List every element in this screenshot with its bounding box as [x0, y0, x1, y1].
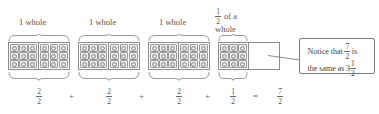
callout-suffix: is [350, 46, 358, 57]
callout-prefix: Notice that [306, 46, 344, 57]
smiley-face-icon [28, 44, 36, 51]
smiley-face-icon [150, 52, 158, 59]
partial-label-prefix: of a [224, 12, 237, 21]
smiley-face-icon [159, 60, 167, 67]
smiley-face-icon [199, 52, 208, 59]
bottom-brace-1 [8, 72, 70, 81]
smiley-face-icon [150, 60, 158, 67]
smiley-face-icon [229, 52, 237, 59]
whole-label-3: 1 whole [159, 17, 186, 27]
callout-line-1: Notice that 7 2 is [306, 43, 369, 60]
callout-fraction-one-half: 1 2 [350, 60, 356, 77]
smiley-face-icon [220, 60, 228, 67]
callout-line2-prefix: the same as [306, 63, 346, 74]
smiley-face-icon [19, 44, 27, 51]
smiley-face-icon [110, 60, 119, 67]
smiley-face-icon [168, 60, 176, 67]
smiley-face-icon [80, 60, 88, 67]
smiley-face-icon [190, 60, 199, 67]
smiley-face-icon [28, 60, 36, 67]
fraction-figure: 1 whole 1 whole 1 whole 1 2 of a whole [0, 0, 379, 114]
half-cell-filled [109, 43, 139, 69]
top-brace-1 [8, 34, 70, 41]
equation-term-2: 2 2 [102, 88, 116, 105]
partial-label-fraction: 1 2 [215, 8, 221, 25]
smiley-face-icon [10, 60, 18, 67]
smiley-face-icon [159, 44, 167, 51]
whole-label-1: 1 whole [19, 17, 46, 27]
smiley-face-icon [10, 44, 18, 51]
equation-term-partial: 1 2 [226, 88, 240, 105]
partial-label-suffix: whole [215, 25, 237, 34]
smiley-face-icon [229, 44, 237, 51]
smiley-face-icon [220, 52, 228, 59]
smiley-face-icon [150, 44, 158, 51]
smiley-face-icon [120, 44, 129, 51]
smiley-face-icon [199, 44, 208, 51]
smiley-face-icon [80, 44, 88, 51]
plus-operator-1: + [69, 91, 74, 101]
plus-operator-3: + [205, 91, 210, 101]
smiley-face-icon [40, 44, 49, 51]
equation-result: 7 2 [273, 88, 287, 105]
smiley-face-icon [19, 52, 27, 59]
smiley-face-icon [190, 44, 199, 51]
callout-line-2: the same as 3 1 2 [306, 60, 369, 77]
plus-operator-2: + [139, 91, 144, 101]
smiley-face-icon [10, 52, 18, 59]
top-brace-2 [78, 34, 140, 41]
half-cell-filled [219, 43, 249, 69]
equation-term-3: 2 2 [172, 88, 186, 105]
partial-label: 1 2 of a whole [215, 8, 237, 34]
smiley-face-icon [59, 44, 68, 51]
smiley-face-icon [110, 44, 119, 51]
smiley-face-icon [120, 52, 129, 59]
smiley-face-icon [28, 52, 36, 59]
smiley-face-icon [238, 60, 246, 67]
smiley-face-icon [50, 52, 59, 59]
smiley-face-icon [180, 52, 189, 59]
smiley-face-icon [180, 60, 189, 67]
equation-term-1: 2 2 [32, 88, 46, 105]
smiley-face-icon [19, 60, 27, 67]
smiley-face-icon [50, 44, 59, 51]
smiley-face-icon [168, 44, 176, 51]
smiley-face-icon [89, 52, 97, 59]
smiley-face-icon [40, 60, 49, 67]
bottom-brace-3 [148, 72, 210, 81]
whole-box-2 [78, 42, 140, 70]
smiley-face-icon [168, 52, 176, 59]
smiley-face-icon [129, 52, 138, 59]
half-cell-filled [149, 43, 179, 69]
smiley-face-icon [129, 60, 138, 67]
smiley-face-icon [180, 44, 189, 51]
smiley-face-icon [159, 52, 167, 59]
half-cell-filled [9, 43, 39, 69]
smiley-face-icon [80, 52, 88, 59]
smiley-face-icon [98, 60, 106, 67]
smiley-face-icon [129, 44, 138, 51]
equals-operator: = [253, 91, 258, 101]
smiley-face-icon [229, 60, 237, 67]
smiley-face-icon [238, 44, 246, 51]
smiley-face-icon [110, 52, 119, 59]
smiley-face-icon [199, 60, 208, 67]
callout-tail [268, 50, 302, 66]
smiley-face-icon [89, 44, 97, 51]
callout-mixed-number: 3 1 2 [346, 60, 356, 77]
smiley-face-icon [120, 60, 129, 67]
half-cell-filled [179, 43, 209, 69]
callout-box: Notice that 7 2 is the same as 3 1 2 [299, 38, 375, 74]
smiley-face-icon [50, 60, 59, 67]
half-cell-filled [79, 43, 109, 69]
whole-box-1 [8, 42, 70, 70]
smiley-face-icon [238, 52, 246, 59]
smiley-face-icon [59, 52, 68, 59]
whole-label-2: 1 whole [89, 17, 116, 27]
smiley-face-icon [190, 52, 199, 59]
smiley-face-icon [89, 60, 97, 67]
half-cell-filled [39, 43, 69, 69]
smiley-face-icon [98, 52, 106, 59]
bottom-brace-2 [78, 72, 140, 81]
top-brace-partial [218, 34, 248, 41]
